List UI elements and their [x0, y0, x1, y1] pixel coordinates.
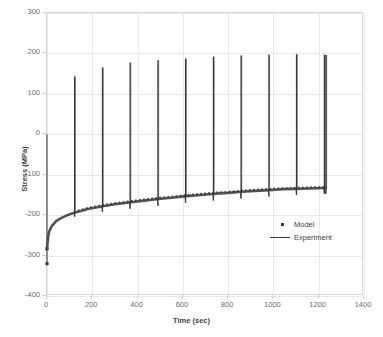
- model-marker: [298, 187, 300, 189]
- model-marker: [220, 191, 222, 193]
- model-marker: [119, 202, 121, 204]
- legend-item-model: Model: [258, 218, 354, 231]
- model-marker: [180, 195, 182, 197]
- model-marker: [163, 196, 165, 198]
- model-marker: [155, 197, 157, 199]
- model-marker: [282, 187, 284, 189]
- model-marker: [192, 193, 194, 195]
- model-marker: [310, 186, 312, 188]
- x-axis-tick-label: 800: [207, 301, 247, 309]
- model-marker: [106, 203, 108, 205]
- model-marker: [204, 192, 206, 194]
- legend-key-experiment: [258, 231, 292, 244]
- model-marker: [188, 194, 190, 196]
- x-axis-tick-label: 600: [162, 301, 202, 309]
- model-marker: [208, 192, 210, 194]
- model-marker: [318, 186, 320, 188]
- model-marker: [151, 198, 153, 200]
- legend: Model Experiment: [258, 218, 354, 244]
- model-marker: [261, 188, 263, 190]
- model-marker: [94, 206, 96, 208]
- model-marker: [278, 187, 280, 189]
- legend-item-experiment: Experiment: [258, 231, 354, 244]
- x-axis-tick-label: 400: [117, 301, 157, 309]
- line-marker-icon: [270, 237, 290, 238]
- model-marker: [212, 192, 214, 194]
- model-marker: [302, 187, 304, 189]
- square-marker-icon: [281, 223, 284, 226]
- model-marker: [294, 187, 296, 189]
- model-marker: [245, 189, 247, 191]
- x-axis-tick-mark: [272, 295, 273, 299]
- model-marker: [225, 191, 227, 193]
- model-marker: [196, 193, 198, 195]
- x-axis-tick-label: 1000: [252, 301, 292, 309]
- model-marker: [269, 188, 271, 190]
- model-marker: [237, 190, 239, 192]
- model-marker: [98, 205, 100, 207]
- model-marker: [147, 198, 149, 200]
- model-marker: [241, 190, 243, 192]
- x-axis-tick-mark: [46, 295, 47, 299]
- x-axis-tick-label: 1400: [343, 301, 383, 309]
- x-axis-tick-mark: [227, 295, 228, 299]
- y-axis-tick-label: -300: [0, 251, 40, 259]
- model-marker: [273, 188, 275, 190]
- data-curves: [47, 13, 364, 296]
- model-marker: [257, 189, 259, 191]
- model-marker: [290, 187, 292, 189]
- model-marker: [216, 191, 218, 193]
- model-marker: [86, 207, 88, 209]
- x-axis-tick-mark: [91, 295, 92, 299]
- model-marker: [229, 191, 231, 193]
- model-marker: [127, 201, 129, 203]
- model-marker: [45, 262, 48, 265]
- model-marker: [143, 199, 145, 201]
- model-marker: [233, 190, 235, 192]
- gridline-vertical: [364, 13, 365, 294]
- model-marker: [114, 202, 116, 204]
- y-axis-title: Stress (MPa): [20, 146, 29, 191]
- y-axis-tick-label: 100: [0, 89, 40, 97]
- model-marker: [253, 189, 255, 191]
- model-marker: [306, 186, 308, 188]
- model-marker: [110, 203, 112, 205]
- y-axis-tick-label: 200: [0, 48, 40, 56]
- model-marker: [322, 186, 324, 188]
- model-marker: [139, 199, 141, 201]
- model-marker: [167, 196, 169, 198]
- x-axis-tick-label: 1200: [298, 301, 338, 309]
- model-marker: [176, 195, 178, 197]
- x-axis-tick-label: 200: [71, 301, 111, 309]
- x-axis-tick-mark: [137, 295, 138, 299]
- model-marker: [135, 200, 137, 202]
- x-axis-title: Time (sec): [0, 316, 383, 325]
- model-marker: [131, 200, 133, 202]
- stress-relaxation-chart: 3002001000-100-200-300-400 0200400600800…: [0, 0, 383, 337]
- model-marker: [90, 206, 92, 208]
- y-axis-tick-label: -200: [0, 210, 40, 218]
- x-axis-tick-mark: [182, 295, 183, 299]
- model-marker: [102, 204, 104, 206]
- model-marker: [78, 209, 80, 211]
- model-marker: [200, 193, 202, 195]
- y-axis-tick-label: 0: [0, 129, 40, 137]
- model-marker: [249, 189, 251, 191]
- model-marker: [82, 208, 84, 210]
- legend-label-experiment: Experiment: [294, 233, 332, 242]
- x-axis-tick-mark: [363, 295, 364, 299]
- y-axis-tick-label: -400: [0, 291, 40, 299]
- model-marker: [184, 194, 186, 196]
- x-axis-tick-mark: [318, 295, 319, 299]
- model-marker: [314, 186, 316, 188]
- plot-area: [46, 12, 363, 295]
- model-marker: [123, 201, 125, 203]
- model-marker: [172, 196, 174, 198]
- x-axis-tick-label: 0: [26, 301, 66, 309]
- model-marker: [265, 188, 267, 190]
- gridline-horizontal: [47, 296, 362, 297]
- legend-label-model: Model: [294, 220, 314, 229]
- legend-key-model: [258, 218, 292, 231]
- model-marker: [159, 197, 161, 199]
- y-axis-tick-label: 300: [0, 8, 40, 16]
